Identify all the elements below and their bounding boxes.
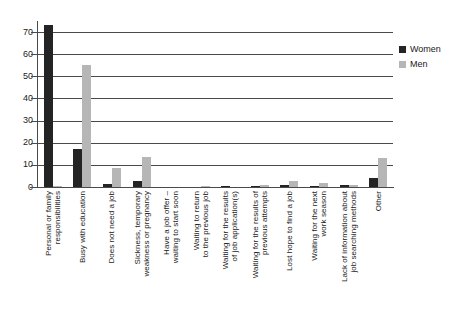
bar-chart: 010203040506070 Women Men Personal or fa… [0, 0, 453, 330]
x-label-block: Busy with education [68, 191, 98, 327]
x-label-block: Have a job offer –waiting to start soon [156, 191, 186, 327]
bar-group [68, 21, 98, 187]
bar-series-layer [38, 21, 393, 187]
bar-women [103, 184, 112, 187]
bar-group [38, 21, 68, 187]
bar-women [73, 149, 82, 187]
bar-women [221, 186, 230, 187]
x-axis-label: previous attempts [261, 191, 274, 327]
legend-item-men: Men [399, 58, 441, 70]
x-axis-label: Lost hope to find a job [286, 191, 299, 327]
x-label-block: Other [363, 191, 393, 327]
bar-group [216, 21, 246, 187]
bar-women [251, 186, 260, 187]
bar-group [97, 21, 127, 187]
bar-men [201, 186, 210, 187]
legend-swatch-women-icon [399, 46, 406, 53]
y-axis-tick-labels: 010203040506070 [0, 21, 33, 188]
bar-group [275, 21, 305, 187]
x-label-block: Waiting for the resultsof job applicatio… [216, 191, 246, 327]
x-label-block: Lack of information aboutjob searching m… [334, 191, 364, 327]
bar-group [156, 21, 186, 187]
x-label-block: Sickness, temporaryweakness or pregnancy [127, 191, 157, 327]
x-label-block: Lost hope to find a job [275, 191, 305, 327]
bar-group [245, 21, 275, 187]
x-label-block: Personal or familyresponsibilities [38, 191, 68, 327]
bar-men [319, 183, 328, 187]
x-axis-label: to the previous job [202, 191, 215, 327]
x-axis-label: Does not need a job [108, 191, 121, 327]
bar-men [349, 185, 358, 187]
bar-women [369, 178, 378, 187]
x-axis-label: work season [320, 191, 333, 327]
x-axis-label: of job application(s) [231, 191, 244, 327]
bar-men [112, 168, 121, 187]
legend-label-women: Women [410, 43, 441, 55]
x-label-block: Does not need a job [97, 191, 127, 327]
bar-men [289, 181, 298, 187]
x-axis-label: weakness or pregnancy [143, 191, 156, 327]
bar-women [44, 25, 53, 187]
bar-women [340, 185, 349, 187]
bar-men [142, 157, 151, 187]
bar-men [53, 186, 62, 187]
x-axis-label: responsibilities [54, 191, 67, 327]
x-axis-baseline [30, 187, 394, 188]
x-label-block: Waiting for the results ofprevious attem… [245, 191, 275, 327]
bar-group [127, 21, 157, 187]
bar-women [280, 185, 289, 187]
bar-men [260, 185, 269, 187]
chart-legend: Women Men [399, 43, 441, 73]
bar-group [304, 21, 334, 187]
x-axis-label: waiting to start soon [172, 191, 185, 327]
legend-swatch-men-icon [399, 61, 406, 68]
legend-item-women: Women [399, 43, 441, 55]
x-axis-label: job searching methods [350, 191, 363, 327]
bar-group [363, 21, 393, 187]
bar-men [378, 158, 387, 187]
x-axis-label: Other [375, 191, 388, 327]
x-label-block: Waiting to returnto the previous job [186, 191, 216, 327]
bar-women [310, 186, 319, 187]
bar-women [133, 181, 142, 187]
bar-men [82, 65, 91, 187]
x-label-block: Waiting for the nextwork season [304, 191, 334, 327]
legend-label-men: Men [410, 58, 428, 70]
x-axis-category-labels: Personal or familyresponsibilitiesBusy w… [38, 191, 393, 329]
bar-group [334, 21, 364, 187]
bar-group [186, 21, 216, 187]
x-axis-label: Busy with education [79, 191, 92, 327]
